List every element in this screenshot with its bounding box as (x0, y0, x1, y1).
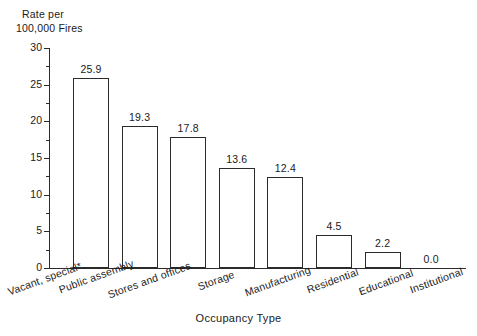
bar-rect[interactable] (267, 177, 303, 268)
y-tick-label: 15 (30, 151, 42, 164)
bar-chart: Rate per 100,000 Fires 051015202530 25.9… (0, 0, 477, 336)
bar-item[interactable]: 12.4 (267, 47, 303, 268)
y-axis-title-line-2: 100,000 Fires (16, 21, 83, 35)
bar-item[interactable]: 25.9 (73, 47, 109, 268)
bar-value-label: 0.0 (405, 253, 457, 265)
y-tick-label: 30 (30, 41, 42, 54)
bar-value-label: 17.8 (162, 122, 214, 134)
bar-value-label: 25.9 (65, 63, 117, 75)
x-axis-label-residential: Residential (305, 265, 360, 295)
bar-item[interactable]: 17.8 (170, 47, 206, 268)
x-axis-label-storage: Storage (196, 268, 236, 292)
x-axis-title: Occupancy Type (0, 312, 477, 324)
bar-rect[interactable] (73, 78, 109, 268)
y-tick-label: 10 (30, 188, 42, 201)
y-tick-label: 20 (30, 114, 42, 127)
bar-item[interactable]: 2.2 (365, 47, 401, 268)
y-tick-label: 25 (30, 78, 42, 91)
bar-series: 25.919.317.813.612.44.52.20.0 (49, 48, 466, 269)
y-axis-title-line-1: Rate per (22, 7, 83, 21)
bar-value-label: 19.3 (114, 111, 166, 123)
bar-rect[interactable] (122, 126, 158, 268)
y-axis-title: Rate per 100,000 Fires (22, 7, 83, 35)
bar-rect[interactable] (365, 252, 401, 268)
bar-item[interactable]: 0.0 (413, 47, 449, 268)
bar-value-label: 2.2 (357, 237, 409, 249)
y-tick-label: 5 (36, 224, 42, 237)
bar-value-label: 12.4 (259, 162, 311, 174)
bar-item[interactable]: 4.5 (316, 47, 352, 268)
bar-value-label: 13.6 (211, 153, 263, 165)
plot-area: 051015202530 25.919.317.813.612.44.52.20… (49, 48, 466, 269)
bar-rect[interactable] (170, 137, 206, 268)
bar-rect[interactable] (219, 168, 255, 268)
x-axis-label-institutional: Institutional (408, 265, 464, 295)
bar-item[interactable]: 19.3 (122, 47, 158, 268)
bar-item[interactable]: 13.6 (219, 47, 255, 268)
bar-value-label: 4.5 (308, 220, 360, 232)
bar-rect[interactable] (316, 235, 352, 268)
x-axis-label-educational: Educational (357, 266, 415, 297)
